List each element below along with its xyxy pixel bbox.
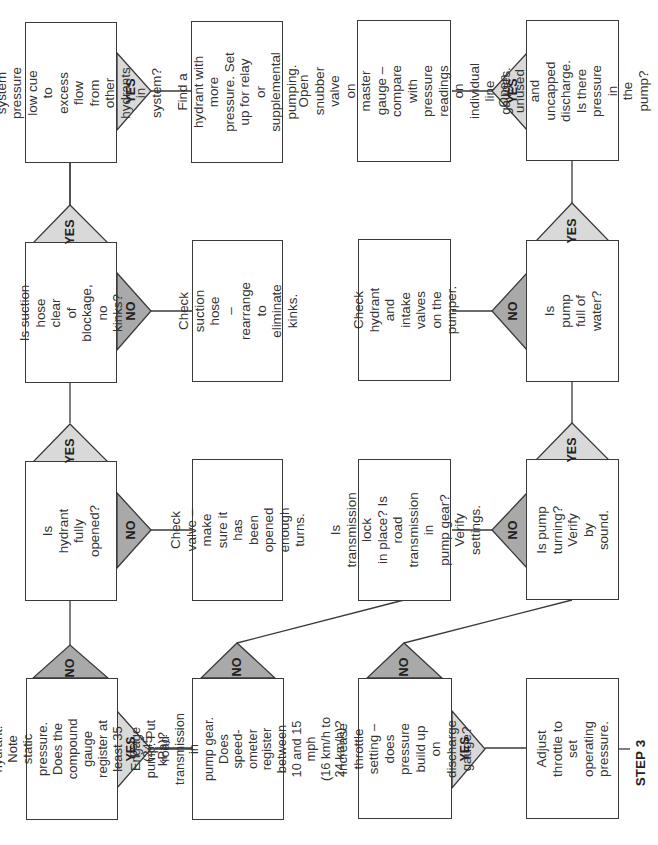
no-label: NO — [124, 521, 138, 540]
action-adjust-throttle: Adjust throttle to set operating pressur… — [526, 678, 619, 819]
no-label: NO — [506, 302, 520, 321]
decision-text: Is suction hose clear of blockage, no ki… — [17, 284, 126, 341]
decision-suction-hose-clear: Is suction hose clear of blockage, no ki… — [25, 242, 117, 383]
no-label: NO — [124, 302, 138, 321]
action-text: Check hydrant and intake valves on the p… — [350, 286, 459, 334]
action-find-hydrant: Find a hydrant with more pressure. Set u… — [191, 21, 283, 163]
no-label: NO — [63, 659, 77, 678]
action-text: Check valve – make sure it has been open… — [168, 508, 308, 553]
decision-hydrant-fully-opened: Is hydrant fully opened? — [25, 461, 117, 601]
action-text: Is transmission lock in place? Is road t… — [327, 492, 482, 567]
action-check-valve: Check valve – make sure it has been open… — [192, 459, 283, 601]
yes-label: YES — [124, 78, 138, 103]
decision-text: Is hydrant fully opened? — [40, 505, 102, 557]
flowchart-canvas: Is system pressure low cue to excess flo… — [0, 0, 658, 845]
no-label: NO — [397, 658, 411, 677]
action-text: Check suction hose – rearrange to elimin… — [176, 282, 300, 340]
yes-label: YES — [506, 78, 520, 103]
yes-label: YES — [124, 736, 138, 761]
decision-text: Is pump turning? Verify by sound. — [534, 505, 612, 553]
decision-engage-pump: Engage pump. Put road transmission in pu… — [192, 678, 284, 820]
yes-label: YES — [63, 438, 77, 463]
action-text: Adjust throttle to set operating pressur… — [534, 721, 612, 777]
decision-text: Is pump full of water? — [542, 288, 604, 334]
action-open-snubber-valve: Open snubber valve on master gauge – com… — [357, 20, 451, 162]
decision-open-unused-discharge: Open unused and uncapped discharge. Is t… — [526, 20, 619, 161]
yes-label: YES — [458, 736, 472, 761]
yes-label: YES — [565, 437, 579, 462]
action-text: Find a hydrant with more pressure. Set u… — [175, 52, 299, 132]
decision-text: Increase throttle setting – does pressur… — [335, 719, 475, 777]
action-text: Open snubber valve on master gauge – com… — [296, 63, 513, 119]
action-transmission-lock: Is transmission lock in place? Is road t… — [358, 459, 451, 601]
no-label: NO — [230, 658, 244, 677]
decision-system-pressure-low: Is system pressure low cue to excess flo… — [25, 22, 117, 163]
step-label: STEP 3 — [633, 740, 648, 786]
decision-text: Engage pump. Put road transmission in pu… — [129, 713, 348, 785]
yes-label: YES — [565, 218, 579, 243]
decision-open-hydrant: Open the hydrant. Note static pressure. … — [26, 678, 118, 820]
action-check-intake-valves: Check hydrant and intake valves on the p… — [358, 239, 451, 381]
decision-increase-throttle: Increase throttle setting – does pressur… — [358, 678, 452, 819]
action-check-suction-hose: Check suction hose – rearrange to elimin… — [192, 240, 283, 382]
decision-pump-turning: Is pump turning? Verify by sound. — [526, 459, 619, 600]
decision-text: Is system pressure low cue to excess flo… — [0, 66, 164, 118]
no-label: NO — [506, 521, 520, 540]
yes-label: YES — [63, 219, 77, 244]
decision-pump-full-of-water: Is pump full of water? — [526, 240, 619, 382]
